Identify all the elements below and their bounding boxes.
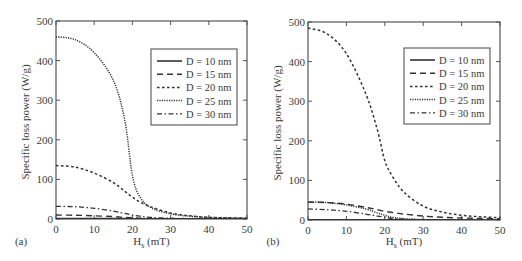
legend: D = 10 nmD = 15 nmD = 20 nmD = 25 nmD = … bbox=[151, 49, 237, 125]
x-tick-label: 0 bbox=[53, 223, 59, 235]
y-tick-label: 400 bbox=[289, 56, 306, 68]
legend-label: D = 15 nm bbox=[186, 69, 231, 80]
y-tick-label: 300 bbox=[289, 95, 306, 107]
x-axis-label: Hs (mT) bbox=[133, 235, 170, 250]
legend-label: D = 20 nm bbox=[186, 82, 231, 93]
y-tick-label: 0 bbox=[48, 213, 54, 225]
legend-label: D = 10 nm bbox=[439, 55, 484, 66]
y-tick-label: 500 bbox=[289, 16, 306, 28]
legend-label: D = 25 nm bbox=[186, 96, 231, 107]
y-tick-label: 200 bbox=[37, 134, 54, 146]
x-tick-label: 30 bbox=[165, 223, 177, 235]
y-axis-label: Specific loss power (W/g) bbox=[19, 64, 32, 179]
legend-label: D = 10 nm bbox=[186, 56, 231, 67]
x-axis-label: Hs (mT) bbox=[386, 235, 423, 250]
x-tick-label: 0 bbox=[305, 224, 311, 236]
y-axis-label: Specific loss power (W/g) bbox=[271, 65, 284, 180]
series-line-20nm bbox=[56, 166, 247, 219]
y-tick-label: 100 bbox=[289, 174, 306, 186]
figure: 010203040500100200300400500Specific loss… bbox=[0, 0, 522, 261]
panel-label: (b) bbox=[267, 235, 280, 248]
x-tick-label: 40 bbox=[203, 223, 215, 235]
series-line-25nm bbox=[308, 202, 500, 220]
legend-label: D = 30 nm bbox=[186, 109, 231, 120]
x-tick-label: 20 bbox=[127, 223, 139, 235]
x-tick-label: 50 bbox=[242, 223, 254, 235]
legend: D = 10 nmD = 15 nmD = 20 nmD = 25 nmD = … bbox=[404, 48, 490, 124]
panel-label: (a) bbox=[15, 235, 28, 248]
x-tick-label: 50 bbox=[495, 224, 507, 236]
chart-panel-a: 010203040500100200300400500Specific loss… bbox=[15, 15, 253, 250]
x-tick-label: 10 bbox=[341, 224, 353, 236]
y-tick-label: 100 bbox=[37, 173, 54, 185]
legend-label: D = 30 nm bbox=[439, 108, 484, 119]
y-tick-label: 200 bbox=[289, 135, 306, 147]
x-tick-label: 10 bbox=[89, 223, 101, 235]
y-tick-label: 300 bbox=[37, 94, 54, 106]
chart-panel-b: 010203040500100200300400500Specific loss… bbox=[267, 16, 506, 250]
y-tick-label: 400 bbox=[37, 55, 54, 67]
y-tick-label: 0 bbox=[300, 214, 306, 226]
legend-label: D = 15 nm bbox=[439, 68, 484, 79]
x-tick-label: 40 bbox=[456, 224, 468, 236]
legend-label: D = 20 nm bbox=[439, 81, 484, 92]
y-tick-label: 500 bbox=[37, 15, 54, 27]
legend-label: D = 25 nm bbox=[439, 95, 484, 106]
